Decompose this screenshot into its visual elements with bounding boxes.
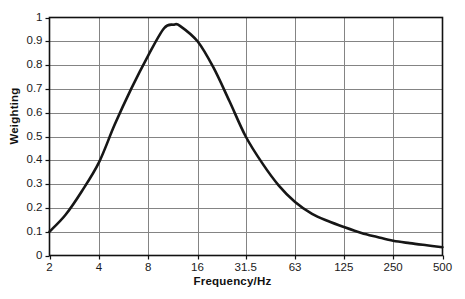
chart-plot-area bbox=[0, 0, 465, 299]
x-tick-label: 500 bbox=[418, 262, 465, 274]
x-tick-label: 16 bbox=[173, 262, 223, 274]
x-tick-label: 4 bbox=[74, 262, 124, 274]
y-axis-title: Weighting bbox=[8, 76, 20, 156]
y-tick-label: 0.8 bbox=[8, 59, 43, 71]
frequency-weighting-chart: 00.10.20.30.40.50.60.70.80.91 2481631.56… bbox=[0, 0, 465, 299]
y-tick-label: 0.3 bbox=[8, 178, 43, 190]
x-tick-label: 8 bbox=[123, 262, 173, 274]
y-tick-label: 0 bbox=[8, 250, 43, 262]
y-tick-label: 0.9 bbox=[8, 35, 43, 47]
y-tick-label: 0.2 bbox=[8, 202, 43, 214]
y-tick-label: 0.1 bbox=[8, 226, 43, 238]
y-tick-label: 1 bbox=[8, 12, 43, 24]
y-tick-label: 0.4 bbox=[8, 154, 43, 166]
x-axis-title: Frequency/Hz bbox=[0, 275, 465, 287]
chart-background bbox=[0, 0, 465, 299]
x-tick-label: 125 bbox=[319, 262, 369, 274]
x-tick-label: 2 bbox=[25, 262, 75, 274]
x-tick-label: 250 bbox=[368, 262, 418, 274]
x-tick-label: 31.5 bbox=[221, 262, 271, 274]
x-tick-label: 63 bbox=[270, 262, 320, 274]
